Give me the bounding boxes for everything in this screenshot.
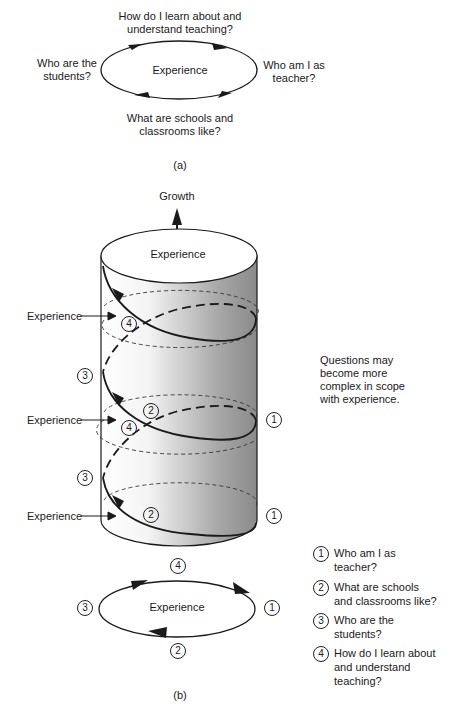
arrow-icon bbox=[128, 44, 142, 50]
label-line: Who am I as bbox=[262, 59, 326, 72]
marker-2: 2 bbox=[143, 403, 159, 419]
marker-3: 3 bbox=[77, 368, 93, 384]
label-line: Who are the bbox=[32, 57, 102, 70]
marker-3: 3 bbox=[77, 470, 93, 486]
label-line: classrooms like? bbox=[110, 125, 250, 138]
legend-line: Who am I as bbox=[334, 546, 456, 560]
marker-1: 1 bbox=[313, 546, 329, 562]
label-line: How do I learn about and bbox=[100, 10, 260, 23]
label-line: students? bbox=[32, 70, 102, 83]
marker-1: 1 bbox=[264, 600, 280, 616]
marker-4: 4 bbox=[121, 316, 137, 332]
marker-1: 1 bbox=[266, 412, 282, 428]
complexity-note: Questions may become more complex in sco… bbox=[320, 354, 450, 406]
legend-item-1: 1 Who am I as teacher? bbox=[313, 546, 456, 574]
legend-text: How do I learn about and understand teac… bbox=[334, 646, 456, 688]
legend-text: What are schools and classrooms like? bbox=[334, 580, 456, 608]
legend-text: Who am I as teacher? bbox=[334, 546, 456, 574]
growth-label: Growth bbox=[147, 190, 207, 203]
legend-line: Who are the bbox=[334, 613, 456, 627]
marker-3: 3 bbox=[77, 600, 93, 616]
legend-line: What are schools bbox=[334, 580, 456, 594]
note-line: become more bbox=[320, 367, 450, 380]
caption-b: (b) bbox=[160, 689, 200, 702]
question-students: Who are the students? bbox=[32, 57, 102, 83]
cycle-center-label-b: Experience bbox=[137, 601, 217, 614]
marker-4: 4 bbox=[121, 420, 137, 436]
cylinder-top-label: Experience bbox=[138, 248, 218, 261]
cylinder bbox=[101, 229, 257, 546]
marker-4: 4 bbox=[313, 646, 329, 662]
experience-label-3: Experience bbox=[27, 510, 82, 523]
label-line: teacher? bbox=[262, 72, 326, 85]
label-line: What are schools and bbox=[110, 112, 250, 125]
legend-item-2: 2 What are schools and classrooms like? bbox=[313, 580, 456, 608]
marker-2: 2 bbox=[170, 643, 186, 659]
legend-line: teacher? bbox=[334, 560, 456, 574]
experience-label-2: Experience bbox=[27, 414, 82, 427]
marker-2: 2 bbox=[313, 580, 329, 596]
label-line: understand teaching? bbox=[100, 23, 260, 36]
cycle-center-label: Experience bbox=[140, 64, 220, 77]
marker-2: 2 bbox=[143, 507, 159, 523]
arrow-icon bbox=[131, 580, 148, 590]
arrow-icon bbox=[134, 92, 150, 98]
question-schools: What are schools and classrooms like? bbox=[110, 112, 250, 138]
legend-item-4: 4 How do I learn about and understand te… bbox=[313, 646, 456, 688]
arrow-icon bbox=[233, 582, 250, 594]
caption-a: (a) bbox=[160, 159, 200, 172]
arrow-up-icon bbox=[172, 208, 182, 225]
legend-line: How do I learn about bbox=[334, 646, 456, 660]
legend-line: teaching? bbox=[334, 674, 456, 688]
legend-line: and classrooms like? bbox=[334, 594, 456, 608]
legend-line: students? bbox=[334, 627, 456, 641]
question-learn-teaching: How do I learn about and understand teac… bbox=[100, 10, 260, 36]
note-line: with experience. bbox=[320, 393, 450, 406]
question-teacher: Who am I as teacher? bbox=[262, 59, 326, 85]
marker-3: 3 bbox=[313, 613, 329, 629]
note-line: Questions may bbox=[320, 354, 450, 367]
marker-4: 4 bbox=[170, 558, 186, 574]
marker-1: 1 bbox=[266, 508, 282, 524]
experience-label-1: Experience bbox=[27, 310, 82, 323]
legend-line: and understand bbox=[334, 660, 456, 674]
legend-item-3: 3 Who are the students? bbox=[313, 613, 456, 641]
note-line: complex in scope bbox=[320, 380, 450, 393]
legend-text: Who are the students? bbox=[334, 613, 456, 641]
